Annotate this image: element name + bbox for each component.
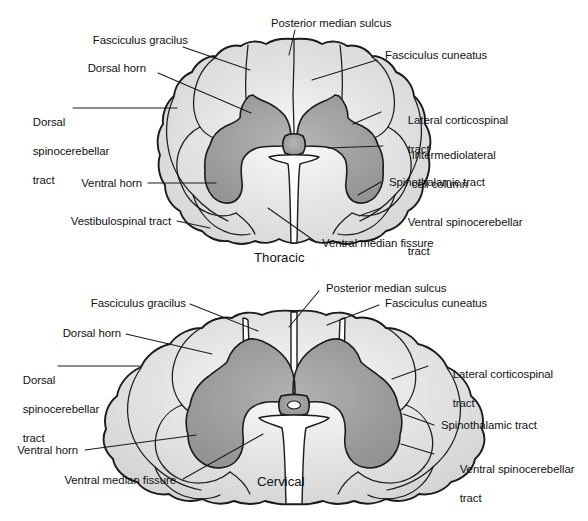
thoracic-panel: Fasciculus gracilus Posterior median sul… [0, 0, 588, 268]
label-ventral-horn-cervical: Ventral horn [4, 443, 78, 458]
label-spinothalamic-tract-cervical: Spinothalamic tract [441, 418, 537, 433]
label-fasciculus-cuneatus-cervical: Fasciculus cuneatus [385, 296, 487, 311]
label-posterior-median-sulcus-cervical: Posterior median sulcus [326, 281, 446, 296]
label-line-2: spinocerebellar [23, 403, 100, 415]
spinal-cord-figure: Fasciculus gracilus Posterior median sul… [0, 0, 588, 521]
label-ventral-spinocerebellar-tract-cervical: Ventral spinocerebellar tract [441, 447, 574, 520]
label-line-1: Ventral spinocerebellar [408, 216, 523, 228]
label-line-1: Lateral corticospinal [453, 368, 553, 380]
cervical-panel: Posterior median sulcus Fasciculus graci… [0, 268, 588, 521]
label-posterior-median-sulcus-thoracic: Posterior median sulcus [271, 16, 391, 31]
label-line-2: tract [453, 397, 475, 409]
caption-thoracic: Thoracic [254, 250, 305, 265]
caption-cervical: Cervical [257, 474, 305, 489]
label-fasciculus-cuneatus-thoracic: Fasciculus cuneatus [385, 48, 487, 63]
central-canal-cervical [288, 401, 301, 409]
label-vestibulospinal-tract-thoracic: Vestibulospinal tract [16, 214, 171, 229]
label-intermediolateral-cell-column-thoracic: Intermediolateral cell column [393, 133, 496, 206]
label-line-1: Intermediolateral [412, 149, 496, 161]
thoracic-gray-commissure [283, 134, 306, 156]
label-dorsal-horn-thoracic: Dorsal horn [28, 61, 146, 76]
label-spinothalamic-tract-thoracic: Spinothalamic tract [389, 175, 485, 190]
label-lateral-corticospinal-tract-cervical: Lateral corticospinal tract [434, 352, 553, 425]
label-line-1: Lateral corticospinal [408, 114, 508, 126]
label-ventral-horn-thoracic: Ventral horn [20, 176, 142, 191]
label-line-1: Dorsal [33, 116, 66, 128]
label-line-1: Dorsal [23, 374, 56, 386]
label-line-2: spinocerebellar [33, 145, 110, 157]
label-dorsal-horn-cervical: Dorsal horn [0, 326, 121, 341]
label-fasciculus-gracilus-cervical: Fasciculus gracilus [52, 296, 186, 311]
label-line-2: tract [460, 492, 482, 504]
label-fasciculus-gracilus-thoracic: Fasciculus gracilus [48, 33, 188, 48]
label-line-1: Ventral spinocerebellar [460, 463, 575, 475]
label-ventral-median-fissure-thoracic: Ventral median fissure [322, 236, 434, 251]
label-ventral-median-fissure-cervical: Ventral median fissure [28, 473, 176, 488]
